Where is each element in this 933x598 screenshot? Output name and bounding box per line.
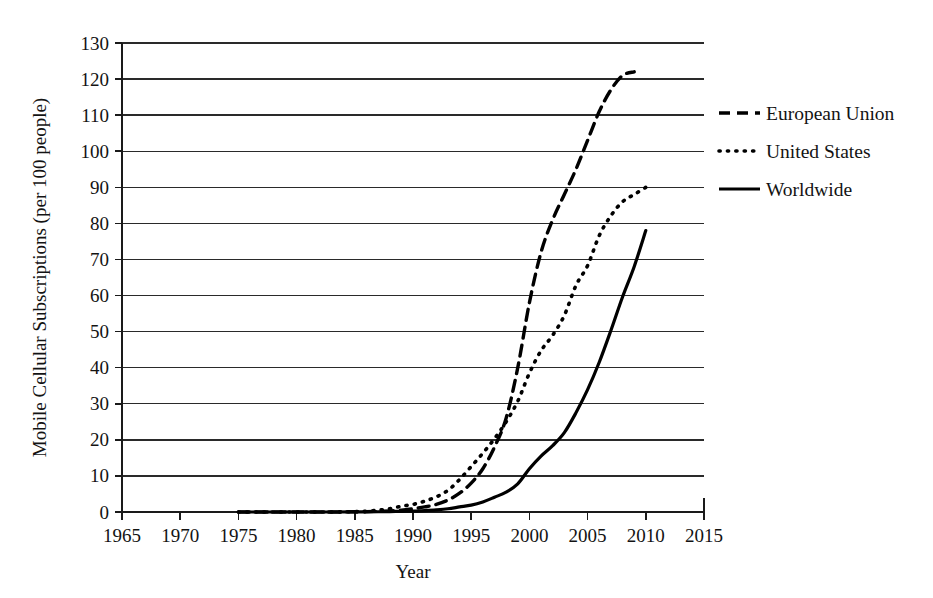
y-axis-tick-marks — [115, 43, 122, 512]
mobile-subscriptions-line-chart: 0102030405060708090100110120130 19651970… — [0, 0, 933, 598]
x-tick-label: 2015 — [685, 525, 723, 546]
x-tick-label: 1990 — [394, 525, 432, 546]
y-tick-label: 100 — [81, 141, 110, 162]
x-tick-label: 1975 — [219, 525, 257, 546]
series-line-european-union — [238, 72, 634, 512]
chart-container: 0102030405060708090100110120130 19651970… — [0, 0, 933, 598]
y-tick-label: 80 — [90, 213, 109, 234]
legend-label-worldwide: Worldwide — [766, 179, 852, 200]
y-axis-title: Mobile Cellular Subscriptions (per 100 p… — [29, 98, 51, 457]
y-tick-label: 30 — [90, 393, 109, 414]
x-tick-label: 2000 — [510, 525, 548, 546]
x-tick-label: 1965 — [103, 525, 141, 546]
y-tick-label: 20 — [90, 429, 109, 450]
data-series — [238, 72, 645, 512]
series-line-united-states — [238, 187, 645, 512]
y-axis-tick-labels: 0102030405060708090100110120130 — [81, 33, 110, 523]
x-axis-tick-labels: 1965197019751980198519901995200020052010… — [103, 525, 723, 546]
y-tick-label: 90 — [90, 177, 109, 198]
legend-label-united-states: United States — [766, 141, 871, 162]
x-tick-label: 1980 — [278, 525, 316, 546]
chart-legend: European UnionUnited StatesWorldwide — [719, 103, 895, 200]
x-axis-title: Year — [395, 561, 431, 582]
y-tick-label: 50 — [90, 321, 109, 342]
x-tick-label: 1985 — [336, 525, 374, 546]
y-tick-label: 0 — [100, 502, 110, 523]
y-tick-label: 10 — [90, 465, 109, 486]
x-tick-label: 2010 — [627, 525, 665, 546]
x-tick-label: 1995 — [452, 525, 490, 546]
x-axis-tick-marks — [122, 498, 704, 520]
y-tick-label: 60 — [90, 285, 109, 306]
y-tick-label: 40 — [90, 357, 109, 378]
y-tick-label: 70 — [90, 249, 109, 270]
legend-label-european-union: European Union — [766, 103, 895, 124]
y-tick-label: 110 — [81, 105, 109, 126]
y-tick-label: 120 — [81, 69, 110, 90]
x-tick-label: 1970 — [161, 525, 199, 546]
x-tick-label: 2005 — [569, 525, 607, 546]
gridlines — [122, 43, 704, 512]
y-tick-label: 130 — [81, 33, 110, 54]
